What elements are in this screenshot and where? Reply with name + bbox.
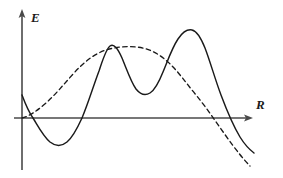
solid-curve — [22, 30, 254, 153]
energy-axis-label: E — [30, 10, 40, 25]
dashed-curve — [22, 47, 250, 166]
plot-canvas: E R — [0, 0, 283, 178]
energy-axis: E — [19, 9, 40, 170]
distance-axis-label: R — [255, 97, 265, 112]
potential-energy-figure: E R — [0, 0, 283, 178]
